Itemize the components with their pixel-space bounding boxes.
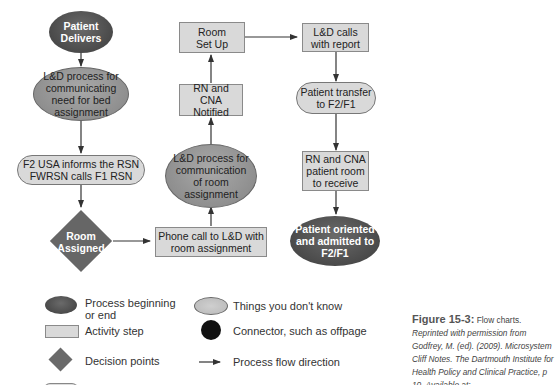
- legend-oval-light-icon: [194, 297, 228, 315]
- node-label: RN and CNA Notified: [181, 82, 241, 118]
- legend-flow-direction: Process flow direction: [233, 356, 340, 368]
- node-ld-calls-report: L&D calls with report: [302, 23, 369, 52]
- legend-process-begin-end: Process beginning or end: [85, 297, 176, 321]
- caption-title: Flow charts.: [474, 315, 521, 325]
- caption-text: Reprinted with permission from Godfrey, …: [412, 328, 557, 385]
- node-patient-delivers: Patient Delivers: [49, 11, 113, 53]
- node-phone-call: Phone call to L&D with room assignment: [155, 227, 267, 257]
- node-room-assigned-label: Room Assigned: [51, 229, 111, 255]
- node-rn-cna-notified: RN and CNA Notified: [179, 84, 243, 116]
- legend-rectangle-icon: [45, 325, 79, 338]
- node-patient-transfer: Patient transfer to F2/F1: [296, 82, 376, 114]
- node-label: L&D process for communication of room as…: [173, 152, 249, 200]
- node-rn-cna-receive: RN and CNA patient room to receive: [302, 151, 369, 191]
- legend-activity-step: Activity step: [85, 325, 144, 337]
- node-label: Patient oriented and admitted to F2/F1: [295, 223, 375, 259]
- legend-connector: Connector, such as offpage: [233, 325, 367, 337]
- node-room-set-up: Room Set Up: [179, 22, 245, 53]
- node-label: Patient transfer to F2/F1: [298, 86, 374, 110]
- node-label: Phone call to L&D with room assignment: [156, 230, 266, 254]
- node-f2-usa-informs: F2 USA informs the RSN FWRSN calls F1 RS…: [17, 155, 145, 185]
- node-patient-oriented: Patient oriented and admitted to F2/F1: [290, 216, 380, 266]
- figure-caption: Figure 15-3: Flow charts. Reprinted with…: [412, 313, 557, 385]
- node-label: L&D calls with report: [306, 26, 366, 50]
- caption-label: Figure 15-3:: [412, 313, 474, 325]
- node-label: Patient Delivers: [59, 20, 103, 44]
- node-ld-process-room: L&D process for communication of room as…: [165, 144, 257, 208]
- legend-decision-points: Decision points: [85, 355, 160, 367]
- node-ld-process-bed: L&D process for communicating need for b…: [33, 67, 129, 121]
- legend-connector-icon: [201, 320, 221, 340]
- legend-oval-dark-icon: [45, 296, 77, 314]
- node-label: Room Set Up: [192, 26, 232, 50]
- node-label: L&D process for communicating need for b…: [42, 70, 120, 118]
- node-label: RN and CNA patient room to receive: [305, 153, 367, 189]
- legend-things-unknown: Things you don't know: [233, 300, 342, 312]
- node-label: F2 USA informs the RSN FWRSN calls F1 RS…: [20, 158, 142, 182]
